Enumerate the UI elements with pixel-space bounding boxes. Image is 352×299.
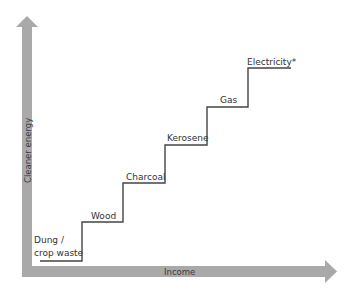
step-label-wood: Wood bbox=[91, 211, 116, 221]
y-axis-label: Cleaner energy bbox=[23, 118, 33, 183]
step-label-dung: Dung / bbox=[34, 235, 65, 245]
step-label-electricity: Electricity* bbox=[247, 57, 297, 67]
step-label-crop-waste: crop waste bbox=[34, 248, 84, 258]
x-axis-label: Income bbox=[164, 267, 195, 277]
step-label-kerosene: Kerosene bbox=[167, 133, 209, 143]
energy-staircase bbox=[40, 68, 291, 261]
energy-ladder-diagram: Cleaner energy Income Dung / crop waste … bbox=[0, 0, 352, 299]
step-label-charcoal: Charcoal bbox=[126, 172, 165, 182]
step-label-gas: Gas bbox=[220, 95, 237, 105]
